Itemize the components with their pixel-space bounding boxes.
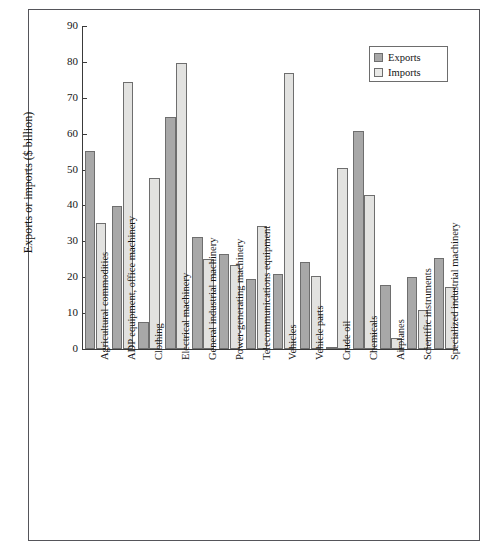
y-tick-label-text: 20	[54, 271, 78, 282]
y-tick-label-text: 10	[54, 307, 78, 318]
y-tick-label: 10	[52, 307, 78, 318]
bar-exports	[273, 274, 283, 349]
x-axis-category-label: Specialized industrial machinery	[449, 222, 460, 360]
x-axis-category-label: General industrial machinery	[207, 238, 218, 360]
y-tick-label-text: 40	[54, 199, 78, 210]
y-tick-label-text: 0	[54, 343, 78, 354]
y-tick-label: 0	[52, 343, 78, 354]
bar-exports	[407, 277, 417, 349]
y-tick-label-text: 90	[54, 20, 78, 31]
x-axis-category-label: Agricultural commodities	[99, 252, 110, 360]
y-tick-label: 70	[52, 92, 78, 103]
x-axis-category-label: Telecommunications equipment	[261, 226, 272, 360]
x-axis-category-label: Electrical machinery	[180, 273, 191, 360]
bar-exports	[219, 254, 229, 349]
y-tick-label-text: 30	[54, 235, 78, 246]
y-tick-label: 80	[52, 56, 78, 67]
x-axis-category-label: Chemicals	[368, 316, 379, 360]
y-tick-label: 50	[52, 164, 78, 175]
y-tick-label-text: 50	[54, 164, 78, 175]
bar-chart: Exports or imports ($ billion) 010203040…	[0, 0, 488, 552]
x-axis-category-label: Clothing	[153, 323, 164, 360]
bar-exports	[138, 322, 148, 349]
legend-item-exports: Exports	[374, 50, 443, 65]
y-tick-label: 20	[52, 271, 78, 282]
legend-swatch-imports	[374, 68, 383, 77]
x-axis-category-label: Vehicle parts	[314, 305, 325, 360]
x-axis-category-label: Airplanes	[395, 319, 406, 360]
chart-legend: Exports Imports	[369, 46, 448, 82]
legend-label-exports: Exports	[388, 52, 421, 63]
bar-exports	[165, 117, 175, 349]
x-axis-category-label: Scientific instruments	[422, 268, 433, 360]
bar-exports	[192, 237, 202, 349]
y-tick-mark	[82, 98, 87, 99]
y-tick-mark	[82, 349, 87, 350]
x-axis-category-label: Crude oil	[341, 321, 352, 360]
bar-exports	[85, 151, 95, 349]
y-tick-mark	[82, 62, 87, 63]
bar-exports	[353, 131, 363, 349]
legend-swatch-exports	[374, 53, 383, 62]
x-axis-category-label: ADP equipment, office machinery	[126, 216, 137, 360]
bar-imports	[284, 73, 294, 349]
y-tick-label: 90	[52, 20, 78, 31]
bar-exports	[112, 206, 122, 349]
y-tick-label: 60	[52, 128, 78, 139]
y-tick-label: 30	[52, 235, 78, 246]
legend-item-imports: Imports	[374, 65, 443, 80]
bar-exports	[326, 347, 336, 349]
y-tick-label-text: 70	[54, 92, 78, 103]
y-axis-title: Exports or imports ($ billion)	[21, 83, 36, 283]
y-tick-label-text: 60	[54, 128, 78, 139]
bar-exports	[300, 262, 310, 349]
x-axis-category-label: Power-generating machinery	[234, 239, 245, 360]
bar-exports	[380, 285, 390, 349]
y-tick-mark	[82, 134, 87, 135]
bar-exports	[246, 279, 256, 349]
y-tick-label: 40	[52, 199, 78, 210]
y-tick-mark	[82, 26, 87, 27]
y-tick-label-text: 80	[54, 56, 78, 67]
x-axis-category-label: Vehicles	[287, 324, 298, 360]
legend-label-imports: Imports	[388, 67, 421, 78]
bar-exports	[434, 258, 444, 349]
y-axis-line	[82, 26, 83, 350]
